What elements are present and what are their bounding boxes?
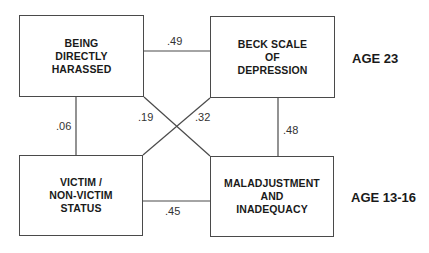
node-label: MALADJUSTMENT AND INADEQUACY	[224, 177, 320, 216]
node-label: BEING DIRECTLY HARASSED	[52, 37, 112, 76]
node-maladjustment-and-inadequacy: MALADJUSTMENT AND INADEQUACY	[210, 156, 334, 237]
coef-bottom: .45	[165, 205, 180, 217]
coef-diag-tr-bl: .32	[195, 111, 210, 123]
node-beck-scale-of-depression: BECK SCALE OF DEPRESSION	[210, 16, 335, 98]
coef-left: .06	[56, 120, 71, 132]
age-label-13-16: AGE 13-16	[351, 190, 416, 205]
node-being-directly-harassed: BEING DIRECTLY HARASSED	[19, 15, 144, 97]
coef-top: .49	[167, 35, 182, 47]
coef-right: .48	[283, 124, 298, 136]
node-label: VICTIM / NON-VICTIM STATUS	[49, 176, 112, 215]
node-victim-status: VICTIM / NON-VICTIM STATUS	[19, 155, 143, 236]
coef-diag-tl-br: .19	[138, 111, 153, 123]
age-label-23: AGE 23	[352, 51, 398, 66]
node-label: BECK SCALE OF DEPRESSION	[238, 38, 308, 77]
